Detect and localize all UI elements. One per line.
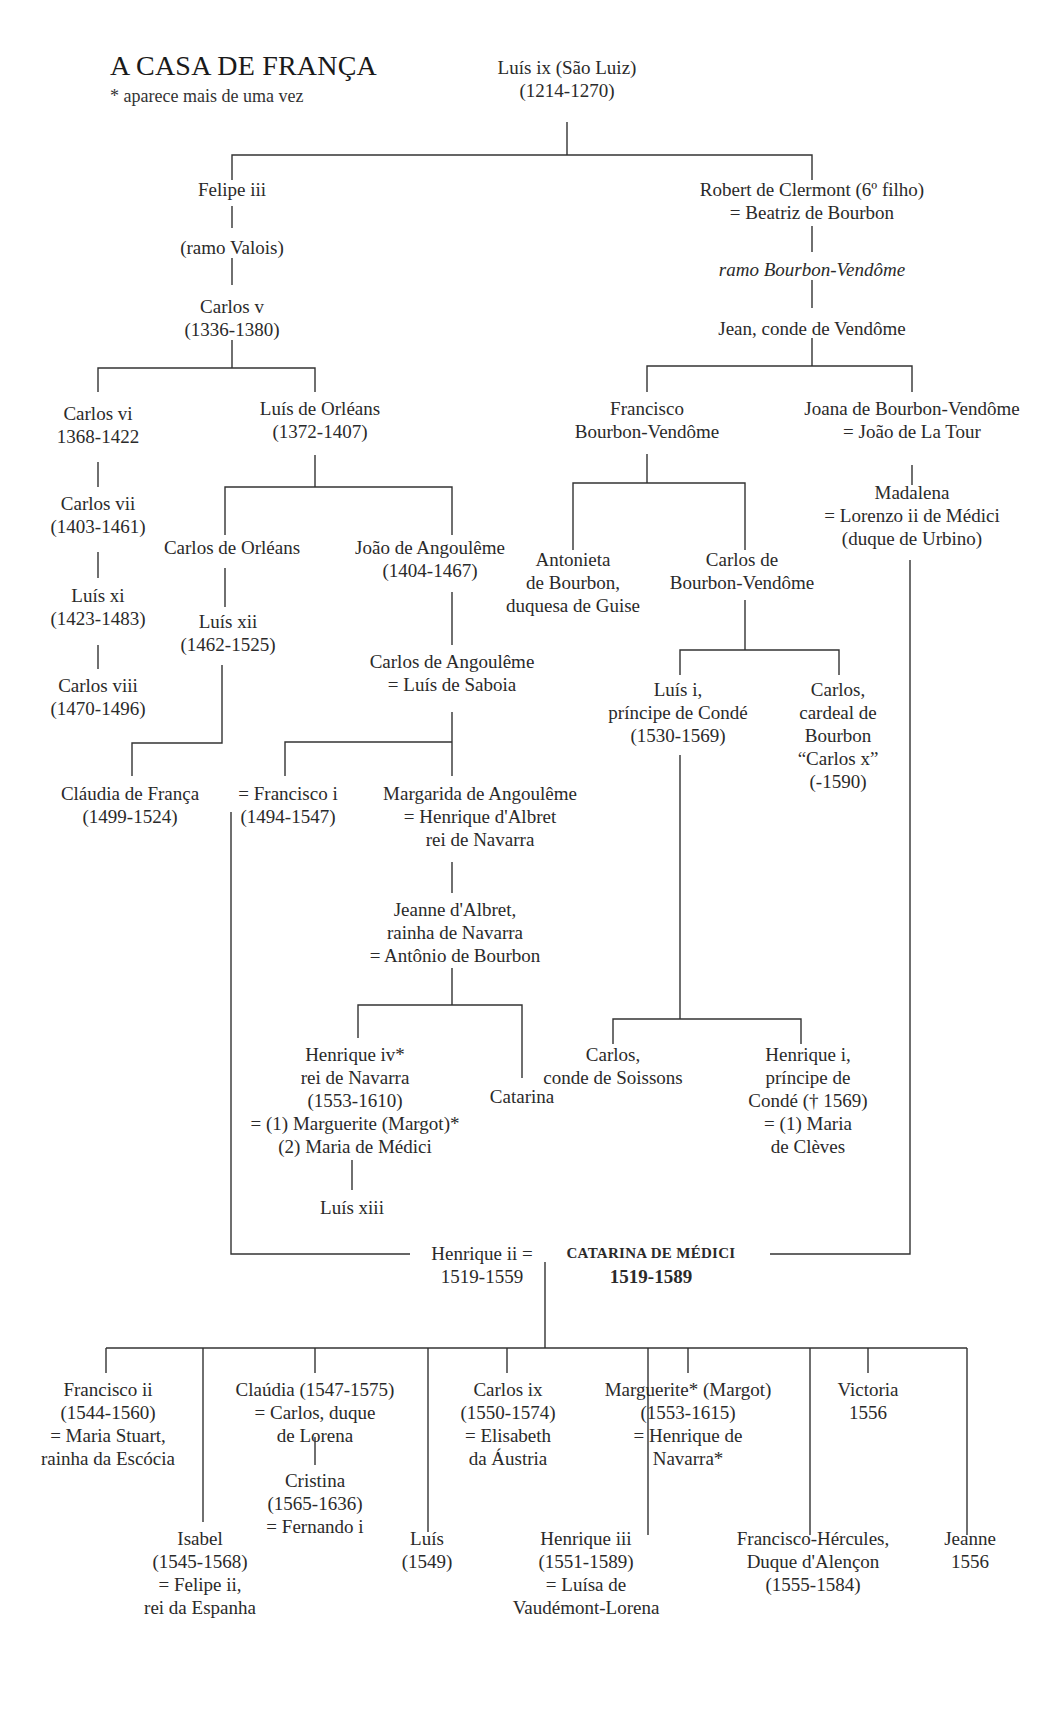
- node-claudia-franca: Cláudia de França (1499-1524): [61, 782, 199, 828]
- node-madalena: Madalena = Lorenzo ii de Médici (duque d…: [824, 481, 999, 550]
- node-cristina: Cristina (1565-1636) = Fernando i: [266, 1469, 363, 1538]
- node-carlos-soissons: Carlos, conde de Soissons: [543, 1043, 682, 1089]
- node-carlos-vii: Carlos vii (1403-1461): [51, 492, 146, 538]
- node-felipe-iii: Felipe iii: [198, 178, 266, 201]
- node-marguerite: Marguerite* (Margot) (1553-1615) = Henri…: [605, 1378, 772, 1470]
- node-carlos-angouleme: Carlos de Angoulême = Luís de Saboia: [370, 650, 535, 696]
- node-luis-xii: Luís xii (1462-1525): [181, 610, 276, 656]
- node-henrique-ii: Henrique ii = 1519-1559: [431, 1242, 532, 1288]
- page-title: A CASA DE FRANÇA: [110, 50, 377, 82]
- node-carlos-v: Carlos v (1336-1380): [185, 295, 280, 341]
- node-henrique-iii: Henrique iii (1551-1589) = Luísa de Vaud…: [513, 1527, 660, 1619]
- node-jeanne-1556: Jeanne 1556: [944, 1527, 996, 1573]
- node-carlos-vi: Carlos vi 1368-1422: [57, 402, 139, 448]
- node-victoria: Victoria 1556: [837, 1378, 898, 1424]
- node-henrique-i-conde: Henrique i, príncipe de Condé († 1569) =…: [748, 1043, 867, 1158]
- node-joao-angouleme: João de Angoulême (1404-1467): [355, 536, 505, 582]
- node-luis-i-conde: Luís i, príncipe de Condé (1530-1569): [608, 678, 747, 747]
- node-francisco-hercules: Francisco-Hércules, Duque d'Alençon (155…: [737, 1527, 889, 1596]
- node-catarina-medici: CATARINA DE MÉDICI 1519-1589: [566, 1242, 735, 1288]
- node-carlos-cardeal: Carlos, cardeal de Bourbon “Carlos x” (-…: [798, 678, 879, 793]
- node-jeanne-albret: Jeanne d'Albret, rainha de Navarra = Ant…: [370, 898, 541, 967]
- node-luis-ix: Luís ix (São Luiz) (1214-1270): [498, 56, 637, 102]
- node-carlos-ix: Carlos ix (1550-1574) = Elisabeth da Áus…: [461, 1378, 556, 1470]
- node-carlos-orleans: Carlos de Orléans: [164, 536, 300, 559]
- asterisk-note: * aparece mais de uma vez: [110, 86, 303, 107]
- node-luis-1549: Luís (1549): [402, 1527, 453, 1573]
- node-margarida-angouleme: Margarida de Angoulême = Henrique d'Albr…: [383, 782, 577, 851]
- node-ramo-valois: (ramo Valois): [180, 236, 284, 259]
- node-francisco-ii: Francisco ii (1544-1560) = Maria Stuart,…: [41, 1378, 175, 1470]
- node-joana-bourbon-vendome: Joana de Bourbon-Vendôme = João de La To…: [804, 397, 1019, 443]
- node-claudia: Claúdia (1547-1575) = Carlos, duque de L…: [236, 1378, 395, 1447]
- node-luis-xi: Luís xi (1423-1483): [51, 584, 146, 630]
- node-antonieta: Antonieta de Bourbon, duquesa de Guise: [506, 548, 640, 617]
- node-ramo-bourbon-vendome: ramo Bourbon-Vendôme: [719, 258, 905, 281]
- node-luis-xiii: Luís xiii: [320, 1196, 384, 1219]
- node-robert-clermont: Robert de Clermont (6º filho) = Beatriz …: [700, 178, 924, 224]
- node-luis-orleans: Luís de Orléans (1372-1407): [260, 397, 380, 443]
- node-francisco-bourbon-vendome: Francisco Bourbon-Vendôme: [575, 397, 720, 443]
- node-francisco-i: = Francisco i (1494-1547): [238, 782, 337, 828]
- node-henrique-iv: Henrique iv* rei de Navarra (1553-1610) …: [251, 1043, 460, 1158]
- node-carlos-viii: Carlos viii (1470-1496): [51, 674, 146, 720]
- node-isabel: Isabel (1545-1568) = Felipe ii, rei da E…: [144, 1527, 256, 1619]
- node-carlos-bourbon-vendome: Carlos de Bourbon-Vendôme: [670, 548, 815, 594]
- node-jean-vendome: Jean, conde de Vendôme: [718, 317, 905, 340]
